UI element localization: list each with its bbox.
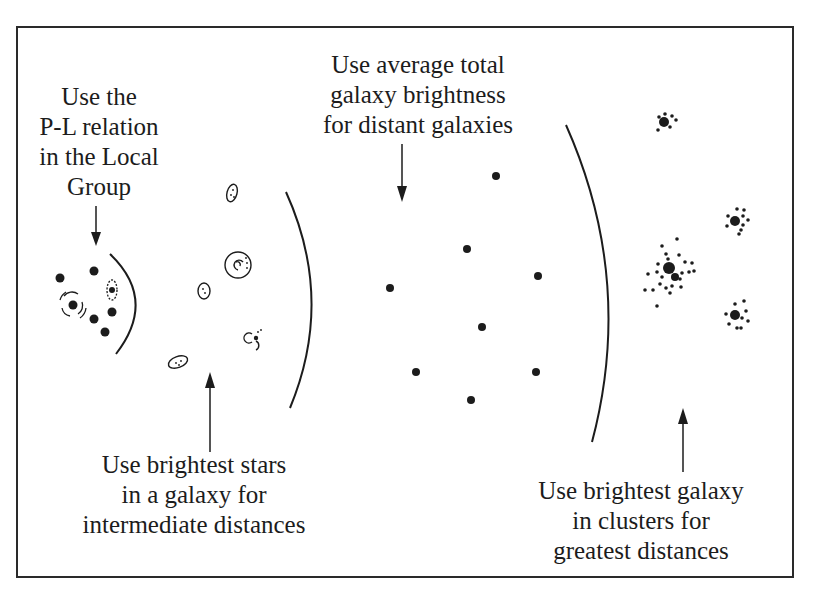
label-intermediate-line-3: intermediate distances [78,510,310,540]
arrow-greatest [678,408,688,472]
label-greatest-line-2: in clusters for [532,506,750,536]
label-distant-line-1: Use average total [318,50,518,80]
cluster-top [656,112,678,132]
label-distant: Use average total galaxy brightness for … [318,50,518,140]
label-greatest-line-1: Use brightest galaxy [532,476,750,506]
local-group-galaxies [56,267,118,337]
boundary-arc-intermediate [286,192,312,408]
label-intermediate: Use brightest stars in a galaxy for inte… [78,450,310,540]
arrow-distant [397,144,407,202]
distant-galaxies [386,172,542,404]
intermediate-galaxies [167,183,259,371]
arrow-intermediate [205,372,215,452]
boundary-arc-distant [566,125,609,442]
label-distant-line-2: galaxy brightness [318,80,518,110]
label-local-group-line-3: in the Local [36,142,162,172]
label-greatest-line-3: greatest distances [532,536,750,566]
label-greatest: Use brightest galaxy in clusters for gre… [532,476,750,566]
label-local-group: Use the P-L relation in the Local Group [36,82,162,202]
arrow-local-group [91,206,101,246]
label-local-group-line-2: P-L relation [36,112,162,142]
cluster-large [643,237,696,308]
label-local-group-line-4: Group [36,172,162,202]
cluster-right-lower [724,299,750,330]
label-intermediate-line-1: Use brightest stars [78,450,310,480]
label-local-group-line-1: Use the [36,82,162,112]
boundary-arc-local-group [110,254,136,354]
label-intermediate-line-2: in a galaxy for [78,480,310,510]
cluster-right-middle [725,207,750,236]
label-distant-line-3: for distant galaxies [318,110,518,140]
